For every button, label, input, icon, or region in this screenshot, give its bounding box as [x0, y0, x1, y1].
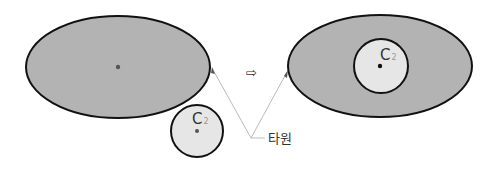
right-circle-center-dot: [378, 64, 382, 68]
callout-label: 타원: [268, 131, 292, 146]
diagram-svg: C2 ⇨ C2 타원: [0, 0, 495, 169]
callout-arrowhead-left: [211, 67, 215, 74]
left-circle-center-dot: [195, 129, 199, 133]
callout-line-right: [251, 72, 287, 138]
left-ellipse-center-dot: [116, 65, 120, 69]
diagram-canvas: C2 ⇨ C2 타원: [0, 0, 495, 169]
transition-arrow-icon: ⇨: [246, 65, 257, 80]
